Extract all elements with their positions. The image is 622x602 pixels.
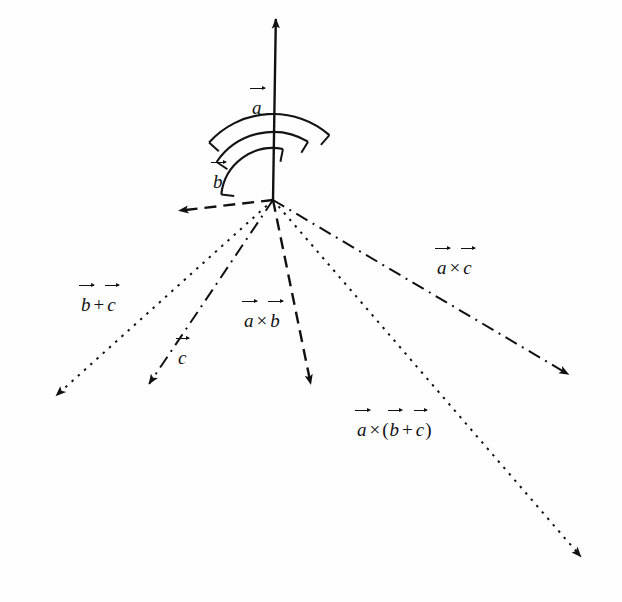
vector-a-cross-b-plus-c bbox=[273, 200, 581, 557]
label-axc-c-glyph: c bbox=[462, 258, 472, 277]
label-vector-b: b bbox=[212, 172, 224, 191]
label-axbpc-close-paren: ) bbox=[425, 419, 431, 440]
arc-c-to-a-cross-c bbox=[217, 132, 308, 162]
arc-c-to-a-cross-c-tick-end bbox=[301, 142, 308, 153]
label-bpc-b-glyph: b bbox=[80, 295, 92, 314]
arc-bc-to-a-cross-bc-tick-start bbox=[209, 142, 219, 151]
vector-a bbox=[273, 19, 276, 200]
label-bpc-operator: + bbox=[92, 294, 107, 315]
label-a-cross-b-plus-c: a×(b+c) bbox=[356, 420, 432, 439]
angle-arcs bbox=[209, 114, 329, 196]
label-axbpc-inner-operator: + bbox=[400, 419, 415, 440]
label-b-plus-c: b+c bbox=[80, 295, 117, 314]
label-bpc-c-glyph: c bbox=[106, 295, 116, 314]
vector-a-cross-c bbox=[273, 200, 569, 374]
arc-b-to-a-cross-b-tick-end bbox=[280, 149, 282, 162]
label-a-glyph: a bbox=[251, 98, 263, 117]
vector-b bbox=[179, 200, 273, 211]
label-axb-a-glyph: a bbox=[243, 311, 255, 330]
vector-a-cross-b bbox=[273, 200, 311, 384]
label-axc-operator: × bbox=[448, 257, 463, 278]
label-a-cross-c: a×c bbox=[436, 258, 473, 277]
label-vector-c: c bbox=[177, 348, 187, 367]
label-b-glyph: b bbox=[212, 172, 224, 191]
label-axbpc-b-glyph: b bbox=[389, 420, 401, 439]
label-axb-operator: × bbox=[255, 310, 270, 331]
label-axb-b-glyph: b bbox=[269, 311, 281, 330]
label-a-cross-b: a×b bbox=[243, 311, 281, 330]
arc-bc-to-a-cross-bc bbox=[209, 114, 329, 142]
arc-b-to-a-cross-b-tick-start bbox=[221, 195, 234, 196]
vector-lines bbox=[56, 19, 581, 557]
label-c-glyph: c bbox=[177, 348, 187, 367]
label-axbpc-c-glyph: c bbox=[415, 420, 425, 439]
vector-c bbox=[149, 200, 273, 384]
vector-diagram: a b c b+c a×b a×c a×(b+c) bbox=[0, 0, 622, 602]
label-vector-a: a bbox=[251, 98, 263, 117]
label-axbpc-a-glyph: a bbox=[356, 420, 368, 439]
label-axbpc-operator: × bbox=[368, 419, 383, 440]
arc-bc-to-a-cross-bc-tick-end bbox=[321, 135, 330, 145]
label-axc-a-glyph: a bbox=[436, 258, 448, 277]
